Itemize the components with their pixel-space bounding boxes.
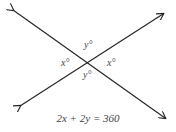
angle-label-top: y° [84,40,92,50]
angle-label-left: x° [61,58,69,68]
angle-label-right: x° [107,58,115,68]
line-descending [13,10,165,118]
equation: 2x + 2y = 360 [0,112,176,124]
angle-label-bottom: y° [83,70,91,80]
line-ascending [20,14,163,106]
